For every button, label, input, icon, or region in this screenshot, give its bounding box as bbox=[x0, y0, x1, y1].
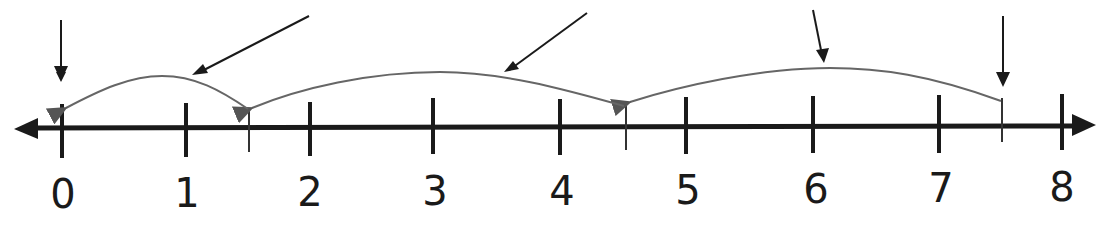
label-3: 3 bbox=[422, 168, 447, 214]
pointer-arrow-arc-1-head bbox=[192, 64, 208, 75]
jump-7-5-to-4-5 bbox=[630, 68, 1001, 102]
tick-labels: 0 1 2 3 4 5 6 7 8 bbox=[50, 164, 1074, 217]
label-2: 2 bbox=[297, 169, 322, 215]
number-line-diagram: 0 1 2 3 4 5 6 7 8 bbox=[0, 0, 1110, 226]
pointer-arrow-arc-2 bbox=[512, 13, 587, 68]
label-5: 5 bbox=[675, 167, 700, 213]
pointer-arrow-arc-3 bbox=[813, 10, 822, 55]
jump-4-5-to-1-5 bbox=[252, 72, 624, 108]
label-0: 0 bbox=[50, 171, 75, 217]
label-4: 4 bbox=[549, 168, 574, 214]
axis-left-arrowhead bbox=[14, 118, 38, 139]
axis-right-arrowhead bbox=[1072, 114, 1096, 136]
jump-arcs bbox=[66, 68, 1001, 109]
axis-line bbox=[34, 126, 1076, 128]
pointer-arrow-arc-3-head bbox=[816, 48, 829, 63]
label-1: 1 bbox=[174, 170, 199, 216]
pointer-arrows bbox=[54, 10, 1010, 87]
pointer-arrow-start-0-head bbox=[54, 66, 68, 81]
pointer-arrow-arc-1 bbox=[200, 16, 309, 72]
label-7: 7 bbox=[928, 165, 953, 211]
label-8: 8 bbox=[1049, 164, 1074, 210]
label-6: 6 bbox=[803, 166, 828, 212]
axis bbox=[14, 114, 1096, 139]
pointer-arrow-start-7-5-head bbox=[996, 72, 1010, 87]
jump-1-5-to-0 bbox=[66, 76, 248, 109]
pointer-arrow-arc-2-head bbox=[504, 61, 519, 72]
